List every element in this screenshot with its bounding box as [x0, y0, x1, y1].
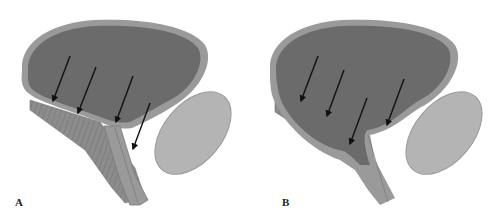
panel-label-a: A	[15, 196, 23, 208]
figure-canvas	[0, 0, 499, 219]
panel-a	[22, 20, 246, 205]
panel-b	[270, 20, 497, 205]
panel-label-b: B	[282, 196, 289, 208]
